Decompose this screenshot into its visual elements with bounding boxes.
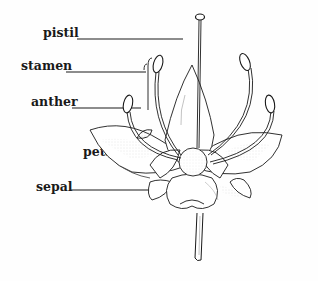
- anther-3: [237, 52, 252, 72]
- stigma: [196, 14, 205, 20]
- stamen-bracket: [144, 58, 152, 110]
- flower-drawing: [0, 0, 318, 281]
- flower-diagram: pistil stamen anther petal sepal: [0, 0, 318, 281]
- anther-4: [264, 94, 276, 113]
- sepal-front: [166, 174, 217, 209]
- anther-1: [151, 54, 164, 74]
- anther-2: [122, 94, 135, 113]
